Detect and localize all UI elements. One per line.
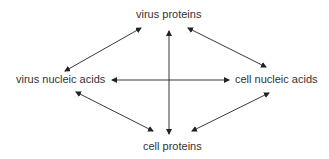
arrow-virus-proteins-cell-nucleic-acids [188, 28, 266, 67]
node-cell-proteins: cell proteins [143, 140, 202, 153]
node-virus-nucleic-acids: virus nucleic acids [16, 73, 105, 86]
node-cell-nucleic-acids: cell nucleic acids [235, 73, 318, 86]
arrow-virus-proteins-virus-nucleic-acids [65, 28, 141, 71]
arrow-cell-nucleic-cell-proteins [192, 93, 269, 131]
node-virus-proteins: virus proteins [136, 8, 201, 21]
arrow-virus-nucleic-cell-proteins [76, 92, 153, 131]
